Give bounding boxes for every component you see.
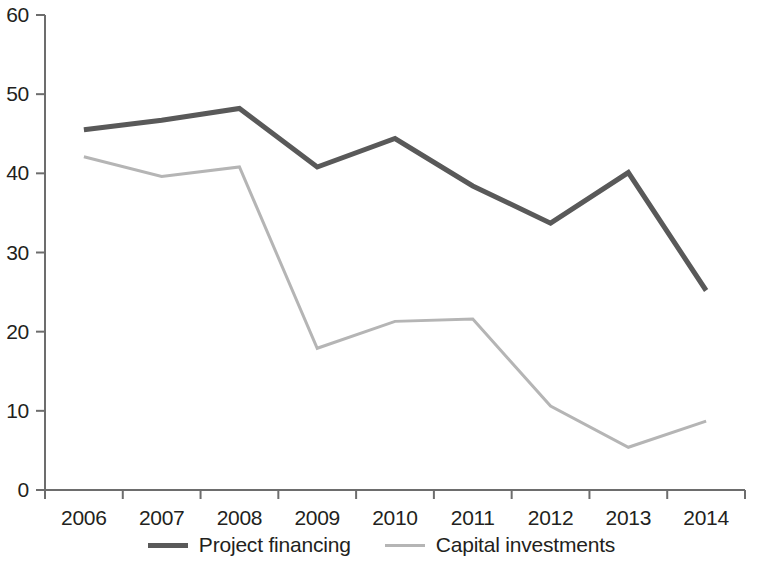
chart-plot-area (0, 0, 763, 564)
legend-label: Project financing (199, 533, 351, 557)
series-line-0 (84, 108, 706, 290)
x-tick-label: 2014 (683, 506, 729, 530)
y-tick-label: 20 (0, 320, 29, 344)
y-tick-label: 10 (0, 399, 29, 423)
legend-swatch-icon (148, 543, 188, 548)
legend-label: Capital investments (436, 533, 615, 557)
x-tick-label: 2013 (606, 506, 652, 530)
x-tick-label: 2011 (451, 506, 495, 530)
y-tick-label: 30 (0, 241, 29, 265)
y-tick-label: 0 (0, 478, 29, 502)
x-tick-label: 2012 (528, 506, 574, 530)
chart-legend: Project financingCapital investments (0, 533, 763, 557)
x-tick-label: 2006 (61, 506, 107, 530)
line-chart: 0102030405060 20062007200820092010201120… (0, 0, 763, 564)
legend-swatch-icon (385, 544, 425, 547)
x-tick-label: 2010 (372, 506, 418, 530)
x-tick-label: 2009 (294, 506, 340, 530)
y-tick-label: 60 (0, 3, 29, 27)
y-tick-label: 40 (0, 161, 29, 185)
x-tick-label: 2008 (217, 506, 263, 530)
series-line-1 (84, 157, 706, 448)
y-tick-label: 50 (0, 82, 29, 106)
x-tick-label: 2007 (139, 506, 185, 530)
legend-entry: Project financing (148, 533, 351, 557)
legend-entry: Capital investments (385, 533, 615, 557)
